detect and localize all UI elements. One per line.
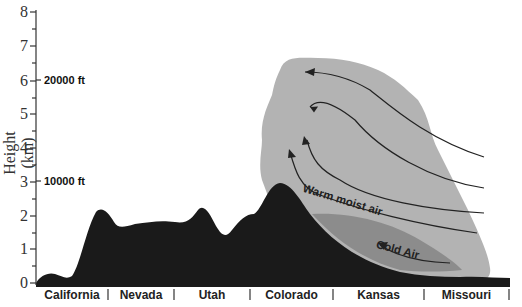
region-label-kansas: Kansas — [333, 288, 424, 302]
y-tick-2: 2 — [14, 208, 28, 224]
region-label-utah: Utah — [174, 288, 250, 302]
altitude-marker-10000ft: 10000 ft — [44, 175, 85, 187]
region-label-colorado: Colorado — [250, 288, 333, 302]
y-tick-6: 6 — [14, 73, 28, 89]
diagram-canvas — [0, 0, 522, 307]
y-tick-7: 7 — [14, 38, 28, 54]
region-label-california: California — [36, 288, 108, 302]
region-label-nevada: Nevada — [108, 288, 174, 302]
y-tick-1: 1 — [14, 241, 28, 257]
y-axis-label: Height (km) — [1, 118, 37, 188]
altitude-marker-20000ft: 20000 ft — [44, 74, 85, 86]
y-tick-0: 0 — [14, 275, 28, 291]
diagram-stage: 8 7 6 5 4 3 2 1 0 Height (km) 20000 ft 1… — [0, 0, 522, 307]
region-label-missouri: Missouri — [424, 288, 509, 302]
y-tick-8: 8 — [14, 4, 28, 20]
